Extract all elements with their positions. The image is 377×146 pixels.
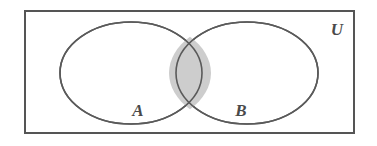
set-b-label: B xyxy=(234,101,246,120)
venn-diagram-canvas: U A B xyxy=(0,0,377,146)
set-a-label: A xyxy=(131,101,143,120)
venn-diagram-figure: U A B xyxy=(0,0,377,146)
universal-set-label: U xyxy=(331,20,344,39)
